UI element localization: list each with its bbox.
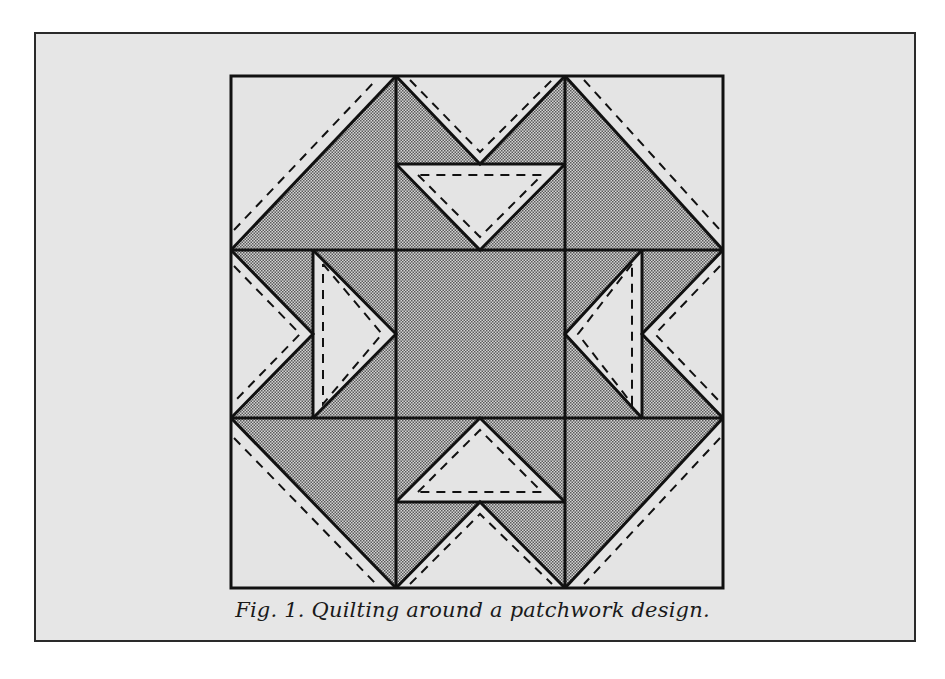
patchwork-diagram <box>0 0 945 679</box>
figure-caption: Fig. 1. Quilting around a patchwork desi… <box>0 598 945 622</box>
